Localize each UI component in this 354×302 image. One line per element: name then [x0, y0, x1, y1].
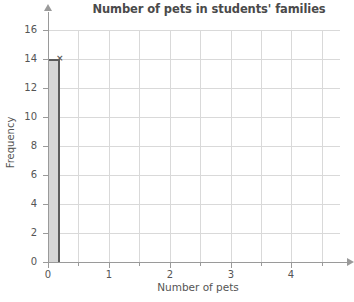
y-axis-tick	[43, 30, 48, 31]
x-axis-line	[48, 262, 348, 263]
gridline-vertical	[291, 30, 292, 262]
chart-title: Number of pets in students' families	[68, 2, 350, 16]
x-axis-arrow-icon	[347, 258, 354, 266]
x-axis-tick	[231, 263, 232, 268]
gridline-vertical	[109, 30, 110, 262]
y-axis-tick-label: 14	[11, 54, 37, 64]
x-axis-minor-tick	[78, 263, 79, 266]
gridline-horizontal	[48, 88, 340, 89]
bar-top-handle-marker: ×	[56, 54, 64, 63]
y-axis-tick-label: 6	[11, 170, 37, 180]
y-axis-tick	[43, 204, 48, 205]
x-axis-tick-label: 0	[36, 270, 60, 280]
x-axis-tick-label: 2	[158, 270, 182, 280]
gridline-vertical	[170, 30, 171, 262]
y-axis-tick-label: 2	[11, 228, 37, 238]
gridline-horizontal	[48, 117, 340, 118]
gridline-vertical	[231, 30, 232, 262]
x-axis-tick-label: 3	[219, 270, 243, 280]
gridline-horizontal	[48, 233, 340, 234]
x-axis-tick-label: 4	[279, 270, 303, 280]
gridline-horizontal	[48, 175, 340, 176]
gridline-horizontal	[48, 146, 340, 147]
x-axis-tick	[109, 263, 110, 268]
x-axis-label: Number of pets	[48, 281, 348, 293]
y-axis-arrow-icon	[44, 4, 52, 11]
x-axis-tick	[291, 263, 292, 268]
y-axis-tick	[43, 146, 48, 147]
gridline-horizontal	[48, 59, 340, 60]
gridline-horizontal	[48, 204, 340, 205]
gridline-vertical	[322, 30, 323, 262]
x-axis-tick	[48, 263, 49, 268]
gridline-vertical	[200, 30, 201, 262]
x-axis-minor-tick	[322, 263, 323, 266]
x-axis-minor-tick	[261, 263, 262, 266]
y-axis-tick	[43, 233, 48, 234]
y-axis-tick-label: 8	[11, 141, 37, 151]
x-axis-minor-tick	[200, 263, 201, 266]
y-axis-tick-label: 0	[11, 257, 37, 267]
data-bar	[48, 59, 60, 262]
x-axis-minor-tick	[139, 263, 140, 266]
chart-canvas: Number of pets in students' families Fre…	[0, 0, 354, 302]
y-axis-tick-label: 10	[11, 112, 37, 122]
gridline-horizontal	[48, 30, 340, 31]
y-axis-tick	[43, 59, 48, 60]
gridline-vertical	[139, 30, 140, 262]
y-axis-tick-label: 16	[11, 25, 37, 35]
gridline-vertical	[261, 30, 262, 262]
y-axis-tick	[43, 175, 48, 176]
y-axis-tick-label: 4	[11, 199, 37, 209]
y-axis-tick	[43, 117, 48, 118]
x-axis-tick-label: 1	[97, 270, 121, 280]
gridline-vertical	[78, 30, 79, 262]
y-axis-line	[48, 12, 49, 262]
y-axis-tick	[43, 88, 48, 89]
y-axis-tick-label: 12	[11, 83, 37, 93]
x-axis-tick	[170, 263, 171, 268]
